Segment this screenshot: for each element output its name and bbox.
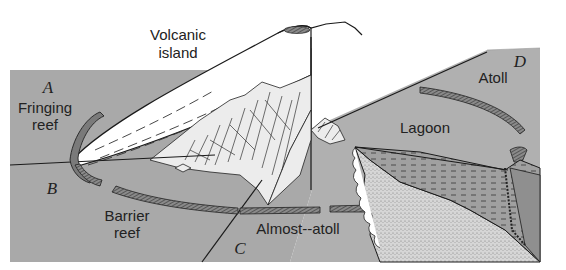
label-fringing-reef-line2: reef [32,116,59,133]
label-atoll: Atoll [478,69,507,86]
stage-label-c: C [234,239,246,258]
label-barrier-reef-line1: Barrier [104,207,149,224]
label-lagoon: Lagoon [400,119,450,136]
stage-label-b: B [47,179,58,198]
almost-atoll-reef-segment-1 [240,207,320,214]
label-barrier-reef-line2: reef [114,224,141,241]
summit-crater [284,27,310,34]
label-volcanic-island-line2: island [158,44,197,61]
label-almost-atoll: Almost--atoll [256,220,339,237]
label-fringing-reef-line1: Fringing [18,99,72,116]
stage-label-d: D [513,52,527,71]
label-volcanic-island-line1: Volcanic [150,26,206,43]
coral-reef-stages-diagram: Volcanic island A Fringing reef B Barrie… [0,0,566,270]
stage-label-a: A [42,78,54,97]
